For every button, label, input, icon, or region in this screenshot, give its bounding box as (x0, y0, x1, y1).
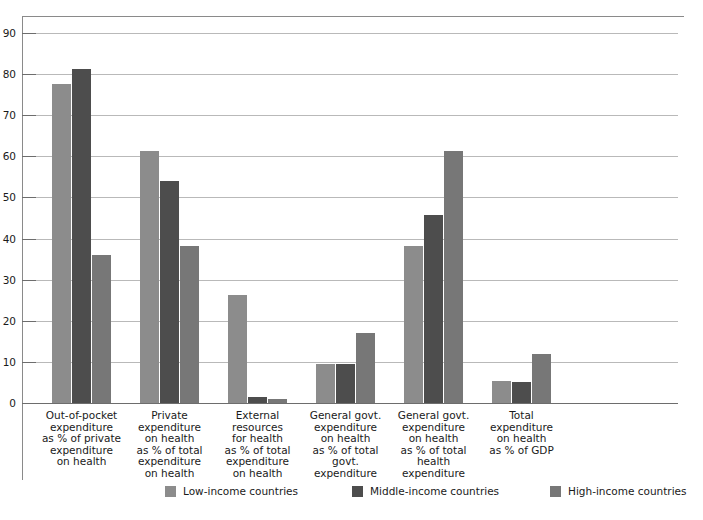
x-axis-label: Totalexpenditureon healthas % of GDP (478, 410, 566, 456)
bar (52, 84, 71, 403)
y-tick-label: 70 (0, 110, 16, 121)
bar-group (140, 33, 199, 403)
bar (72, 69, 91, 403)
x-axis-label-line: on health (126, 468, 214, 480)
legend-swatch-icon (165, 486, 176, 497)
legend-swatch-icon (352, 486, 363, 497)
y-tick-label: 40 (0, 233, 16, 244)
x-axis-label: General govt.expenditureon healthas % of… (390, 410, 478, 480)
chart-legend: Low-income countriesMiddle-income countr… (22, 485, 678, 503)
y-tick-label: 80 (0, 69, 16, 80)
y-tick-label: 20 (0, 316, 16, 327)
x-axis-label-line: as % of GDP (478, 445, 566, 457)
bar (228, 295, 247, 403)
bar (316, 364, 335, 403)
x-axis-label: Privateexpenditureon healthas % of total… (126, 410, 214, 480)
legend-item[interactable]: High-income countries (550, 485, 687, 497)
y-tick-label: 30 (0, 274, 16, 285)
legend-item[interactable]: Low-income countries (165, 485, 298, 497)
x-axis-label: Externalresourcesfor healthas % of total… (214, 410, 302, 480)
x-axis-label-line: on health (38, 456, 126, 468)
bar (140, 151, 159, 403)
y-tick-label: 60 (0, 151, 16, 162)
x-axis-label-line: External (214, 410, 302, 422)
bar-series-container (22, 33, 678, 403)
bar (180, 246, 199, 403)
x-axis-label-line: Total (478, 410, 566, 422)
bar (404, 246, 423, 403)
bar (336, 364, 355, 403)
y-tick-label: 10 (0, 357, 16, 368)
x-axis-label-line: General govt. (302, 410, 390, 422)
frame-top-rule (22, 16, 684, 17)
x-axis-baseline (36, 403, 678, 404)
legend-label: High-income countries (568, 485, 687, 497)
bar (356, 333, 375, 403)
bar (92, 255, 111, 403)
x-axis-label-line: expenditure (390, 468, 478, 480)
bar-group (316, 33, 375, 403)
bar-group (404, 33, 463, 403)
x-axis-label: Out-of-pocketexpenditureas % of privatee… (38, 410, 126, 468)
x-axis-label-line: Private (126, 410, 214, 422)
bar (532, 354, 551, 403)
x-axis-label-line: expenditure (302, 468, 390, 480)
bar-group (52, 33, 111, 403)
bar (444, 151, 463, 403)
x-axis-label-line: General govt. (390, 410, 478, 422)
legend-item[interactable]: Middle-income countries (352, 485, 499, 497)
legend-label: Middle-income countries (370, 485, 499, 497)
x-axis-label-line: Out-of-pocket (38, 410, 126, 422)
bar-group (492, 33, 551, 403)
y-tick-label: 0 (0, 398, 16, 409)
x-axis-label: General govt.expenditureon healthas % of… (302, 410, 390, 480)
plot-area: 0102030405060708090 (22, 33, 678, 403)
x-axis-labels: Out-of-pocketexpenditureas % of privatee… (22, 410, 678, 480)
tick-mark (22, 403, 36, 404)
bar (424, 215, 443, 403)
bar (160, 181, 179, 403)
chart-page: 0102030405060708090 Out-of-pocketexpendi… (0, 0, 703, 520)
y-tick-label: 90 (0, 28, 16, 39)
x-axis-label-line: on health (214, 468, 302, 480)
legend-label: Low-income countries (183, 485, 298, 497)
y-tick-label: 50 (0, 192, 16, 203)
legend-swatch-icon (550, 486, 561, 497)
bar (512, 382, 531, 403)
bar-group (228, 33, 287, 403)
bar (492, 381, 511, 403)
